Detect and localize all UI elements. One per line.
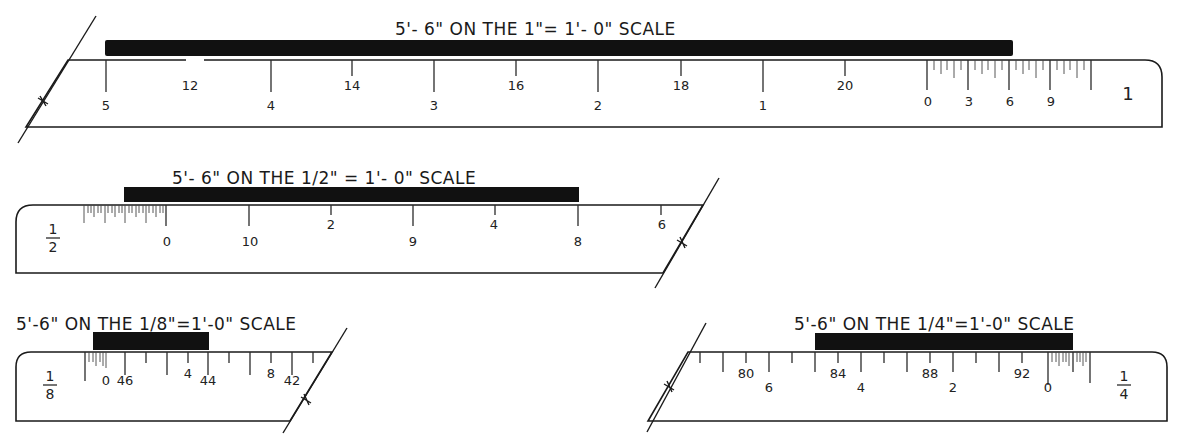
ruler-quarter-in-measure-bar (815, 333, 1073, 350)
ruler-eighth-in-label-46: 46 (117, 373, 134, 388)
ruler-1in-body (26, 60, 1162, 127)
ruler-quarter-in-label-80: 80 (738, 366, 755, 381)
ruler-1in-label-1: 1 (759, 98, 767, 113)
ruler-1in-label-3: 3 (430, 98, 438, 113)
ruler-quarter-in-label-4: 4 (857, 380, 865, 395)
ruler-half-in-label-4: 4 (490, 217, 498, 232)
ruler-1in-label-16: 16 (508, 78, 525, 93)
ruler-1in-label-2: 2 (594, 98, 602, 113)
ruler-1in-inch-3: 3 (965, 94, 973, 109)
ruler-half-in-label-6: 6 (658, 217, 666, 232)
ruler-eighth-in-label-8: 8 (267, 366, 275, 381)
ruler-1in-label-12: 12 (182, 78, 199, 93)
ruler-eighth-in-measure-bar (93, 332, 209, 350)
ruler-1in-label-20: 20 (837, 78, 854, 93)
svg-text:1: 1 (46, 368, 55, 384)
ruler-eighth-in-label-4: 4 (184, 366, 192, 381)
ruler-quarter-in-title: 5'-6" ON THE 1/4"=1'-0" SCALE (794, 314, 1075, 334)
ruler-1in-inch-6: 6 (1006, 94, 1014, 109)
ruler-half-in-title: 5'- 6" ON THE 1/2" = 1'- 0" SCALE (172, 168, 476, 188)
ruler-half-in-label-2: 2 (327, 217, 335, 232)
ruler-quarter-in-scale: 5'-6" ON THE 1/4"=1'-0" SCALE (647, 314, 1167, 432)
ruler-1in-label-18: 18 (673, 78, 690, 93)
ruler-half-in-body (16, 205, 703, 273)
ruler-quarter-in-label-84: 84 (830, 366, 847, 381)
svg-text:1: 1 (1120, 368, 1129, 384)
ruler-eighth-in-label-44: 44 (200, 373, 217, 388)
ruler-quarter-in-label-92: 92 (1014, 366, 1031, 381)
svg-text:2: 2 (49, 239, 58, 255)
ruler-1in-scale: 5'- 6" ON THE 1"= 1'- 0" SCALE (18, 16, 1162, 143)
ruler-1in-inch-0: 0 (924, 94, 932, 109)
ruler-quarter-in-label-0: 0 (1044, 380, 1052, 395)
ruler-1in-label-5: 5 (102, 98, 110, 113)
svg-text:1: 1 (49, 221, 58, 237)
ruler-half-in-label-9: 9 (409, 234, 417, 249)
ruler-1in-label-14: 14 (344, 78, 361, 93)
ruler-1in-title: 5'- 6" ON THE 1"= 1'- 0" SCALE (395, 19, 676, 39)
ruler-half-in-scale: 5'- 6" ON THE 1/2" = 1'- 0" SCALE 0 10 9… (16, 168, 719, 288)
ruler-1in-inch-9: 9 (1047, 94, 1055, 109)
architect-scale-diagram: 5'- 6" ON THE 1"= 1'- 0" SCALE (0, 0, 1184, 448)
top-edge-gap (186, 57, 204, 63)
ruler-1in-measure-bar (105, 40, 1013, 56)
ruler-quarter-in-label-2: 2 (949, 380, 957, 395)
ruler-eighth-in-label-0: 0 (102, 373, 110, 388)
svg-text:8: 8 (46, 386, 55, 402)
ruler-half-in-label-10: 10 (242, 234, 259, 249)
ruler-half-in-label-8: 8 (574, 234, 582, 249)
ruler-eighth-in-scale: 5'-6" ON THE 1/8"=1'-0" SCALE 0 46 44 42… (16, 314, 347, 433)
ruler-quarter-in-label-88: 88 (922, 366, 939, 381)
svg-text:4: 4 (1120, 386, 1129, 402)
ruler-eighth-in-label-42: 42 (284, 373, 301, 388)
ruler-quarter-in-label-6: 6 (765, 380, 773, 395)
ruler-1in-label-4: 4 (267, 98, 275, 113)
ruler-half-in-label-0: 0 (163, 234, 171, 249)
ruler-half-in-measure-bar (124, 187, 579, 202)
ruler-1in-scale-label: 1 (1122, 83, 1133, 104)
ruler-eighth-in-title: 5'-6" ON THE 1/8"=1'-0" SCALE (16, 314, 297, 334)
